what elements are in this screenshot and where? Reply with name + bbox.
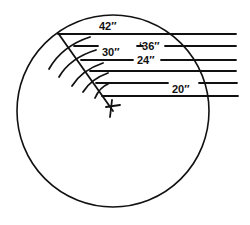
label-30: 30″ <box>102 46 120 58</box>
label-36: ‘36″ <box>139 40 160 52</box>
label-42: 42″ <box>99 20 117 32</box>
diameter-diagram: 42″ ‘36″ 30″ 24″ 20″ <box>0 0 250 225</box>
label-24: 24″ <box>137 54 155 66</box>
arc-30 <box>59 50 96 77</box>
label-20: 20″ <box>172 83 190 95</box>
